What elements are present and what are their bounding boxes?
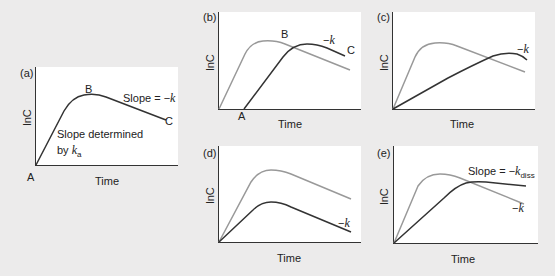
panel-b-plot: [218, 12, 361, 110]
panel-e-dissolution-curve: [394, 182, 526, 243]
panel-d-k-label: −k: [338, 217, 350, 229]
panel-e-xlabel: Time: [451, 254, 475, 265]
panel-b-k-label: −k: [323, 34, 335, 46]
panel-a-slope-label: Slope = −k: [123, 92, 175, 104]
panel-c-xlabel: Time: [450, 119, 474, 130]
panel-b-point-c: C: [347, 45, 355, 56]
panel-c-k-label: −k: [517, 43, 529, 55]
panel-b-ylabel: lnC: [205, 54, 216, 71]
panel-d-xlabel: Time: [277, 253, 301, 264]
panel-b-lag-curve: [244, 44, 345, 109]
panel-e-tag: (e): [377, 148, 390, 159]
panel-c-curves: [393, 12, 535, 109]
panel-c-reference-curve: [393, 43, 525, 109]
panel-b-curves: [219, 12, 361, 109]
panel-a-point-a: A: [27, 172, 34, 183]
panel-c-ylabel: lnC: [379, 54, 390, 71]
panel-d-ylabel: lnC: [205, 187, 216, 204]
panel-a-point-b: B: [85, 84, 92, 95]
panel-c-tag: (c): [377, 12, 390, 23]
panel-a-point-c: C: [165, 116, 173, 127]
panel-e-plot: [393, 146, 538, 244]
panel-c-plot: [392, 12, 535, 110]
panel-d-lower-curve: [219, 202, 351, 242]
panel-a-tag: (a): [20, 68, 33, 79]
panel-e-k-label: −k: [512, 202, 524, 214]
panel-a-det-line2: by ka: [57, 144, 81, 159]
panel-d-tag: (d): [203, 148, 216, 159]
panel-e-ylabel: lnC: [379, 188, 390, 205]
panel-b-tag: (b): [203, 12, 216, 23]
panel-b-point-a: A: [238, 111, 245, 122]
panel-e-slope-label: Slope = −kdiss: [468, 165, 535, 180]
panel-b-point-b: B: [281, 29, 288, 40]
panel-b-xlabel: Time: [278, 119, 302, 130]
panel-b-reference-curve: [219, 41, 350, 109]
panel-d-reference-curve: [219, 170, 351, 242]
panel-a-det-line1: Slope determined: [57, 129, 143, 140]
panel-a-ylabel: lnC: [22, 109, 33, 126]
panel-a-xlabel: Time: [95, 176, 119, 187]
panel-e-curves: [394, 146, 538, 243]
